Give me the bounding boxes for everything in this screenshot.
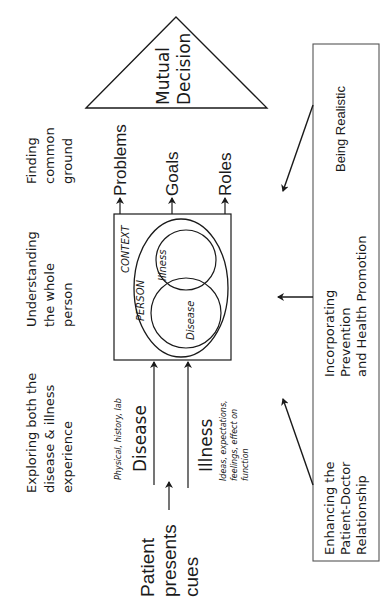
input-illness: Illness	[196, 418, 216, 472]
finding-line2: common	[42, 127, 57, 184]
context-label: CONTEXT	[120, 224, 131, 273]
output-problems: Problems	[111, 124, 130, 196]
person-label: PERSON	[135, 279, 146, 321]
illness-note-line2: feelings, effect on	[230, 409, 239, 481]
output-goals: Goals	[163, 152, 182, 196]
mutual-decision-label-line2: Decision	[174, 33, 194, 105]
patient-presents-cues: Patient presents cues	[137, 482, 202, 597]
exploring-line1: Exploring both the	[24, 373, 39, 493]
exploring-line3: experience	[60, 421, 75, 493]
relationship-line1: Enhancing the	[322, 461, 337, 555]
disease-note: Physical, history, lab	[114, 398, 123, 480]
inputs-group: Physical, history, lab Disease Illness I…	[114, 362, 250, 488]
side-box: Being Realistic Incorporating Prevention…	[278, 44, 379, 561]
arrow-diagonal-icon	[283, 105, 313, 191]
understanding-line2: the whole	[42, 263, 57, 327]
finding-line1: Finding	[24, 137, 39, 184]
relationship-line2: Patient-Doctor	[338, 461, 353, 555]
mutual-decision-label-line1: Mutual	[153, 47, 173, 105]
arrow-diagonal-icon	[283, 399, 313, 485]
start-label-line2: presents	[159, 524, 180, 597]
exploring-line2: disease & illness	[42, 384, 57, 493]
disease-circle-label: Disease	[185, 301, 196, 340]
component-labels: Finding common ground Understanding the …	[24, 127, 75, 493]
start-label-line3: cues	[181, 557, 202, 597]
finding-line3: ground	[60, 138, 75, 184]
output-roles: Roles	[216, 153, 235, 196]
being-realistic-label: Being Realistic	[333, 86, 348, 172]
context-box: CONTEXT PERSON Illness Disease	[114, 214, 231, 360]
relationship-line3: Relationship	[354, 475, 369, 555]
understanding-line3: person	[60, 282, 75, 327]
prevention-line2: Prevention	[338, 307, 353, 377]
prevention-line1: Incorporating	[322, 290, 337, 377]
start-label-line1: Patient	[137, 537, 158, 597]
outputs-group: Problems Goals Roles	[111, 124, 235, 214]
illness-note-line3: function	[241, 448, 250, 481]
mutual-decision-triangle: Mutual Decision	[86, 17, 267, 108]
patient-centered-clinical-method-diagram: Mutual Decision Problems Goals Roles CON…	[0, 0, 391, 614]
input-disease: Disease	[130, 405, 150, 472]
illness-note-line1: Ideas, expectations,	[219, 400, 228, 481]
understanding-line1: Understanding	[24, 231, 39, 327]
illness-circle-label: Illness	[157, 250, 168, 281]
person-ellipse	[134, 219, 228, 357]
prevention-line3: and Health Promotion	[354, 235, 369, 377]
